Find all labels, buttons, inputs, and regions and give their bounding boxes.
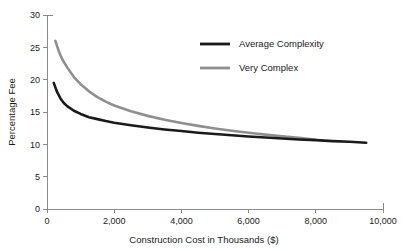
- series-line: [54, 83, 366, 143]
- x-tick-label: 10,000: [369, 216, 397, 226]
- percentage-fee-chart: 02,0004,0006,0008,00010,000 051015202530…: [0, 0, 408, 251]
- x-tick-labels: 02,0004,0006,0008,00010,000: [44, 216, 396, 226]
- y-tick-label: 0: [35, 204, 40, 214]
- series-line: [55, 41, 315, 140]
- x-tick-label: 0: [44, 216, 49, 226]
- y-axis-title: Percentage Fee: [6, 78, 17, 146]
- chart-legend: Average ComplexityVery Complex: [200, 38, 324, 73]
- legend-label: Very Complex: [239, 62, 298, 73]
- y-tick-label: 25: [30, 43, 40, 53]
- y-tick-label: 15: [30, 107, 40, 117]
- chart-canvas: 02,0004,0006,0008,00010,000 051015202530…: [0, 0, 408, 251]
- x-tick-label: 4,000: [170, 216, 193, 226]
- x-tick-label: 8,000: [305, 216, 328, 226]
- data-series: [54, 41, 366, 143]
- y-tick-label: 30: [30, 10, 40, 20]
- y-tick-labels: 051015202530: [30, 10, 40, 214]
- y-tick-label: 10: [30, 140, 40, 150]
- y-tick-label: 20: [30, 75, 40, 85]
- x-tick-label: 6,000: [237, 216, 260, 226]
- y-tick-label: 5: [35, 172, 40, 182]
- x-axis-title: Construction Cost in Thousands ($): [129, 234, 278, 245]
- x-tick-label: 2,000: [103, 216, 126, 226]
- legend-label: Average Complexity: [239, 38, 324, 49]
